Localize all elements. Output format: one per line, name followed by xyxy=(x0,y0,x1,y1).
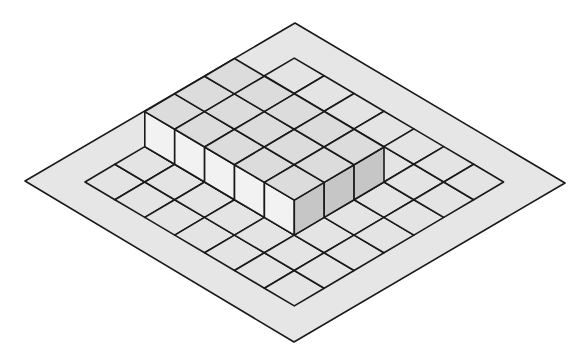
isometric-diagram xyxy=(0,0,584,364)
isometric-grid-svg xyxy=(0,0,584,364)
